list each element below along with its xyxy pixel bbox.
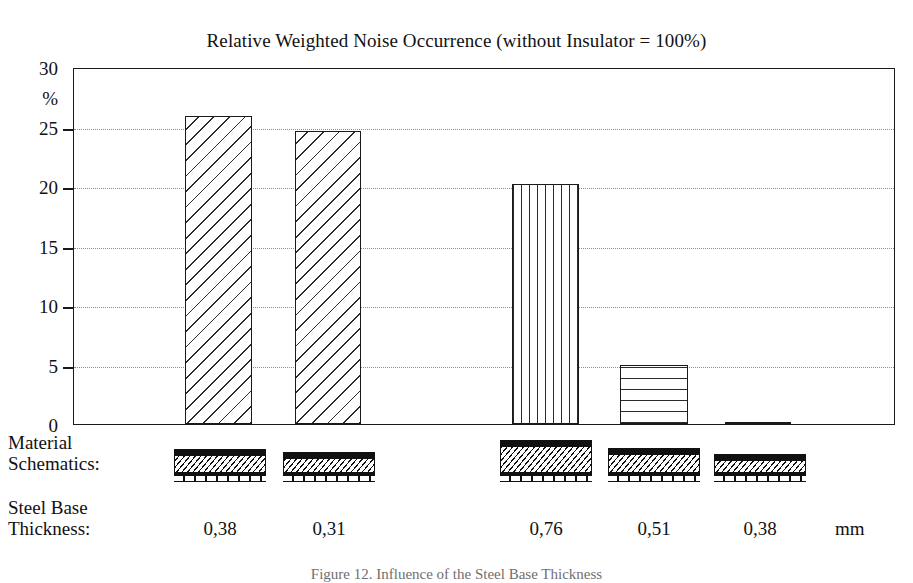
y-tick-label-15: 15 <box>39 237 58 256</box>
y-tick-label-25: 25 <box>39 118 58 137</box>
bar-3[interactable] <box>620 365 688 425</box>
steel-base-thickness-label: Steel Base Thickness: <box>8 497 90 539</box>
thickness-value-0: 0,38 <box>174 518 266 539</box>
y-tick-label-10: 10 <box>39 297 58 316</box>
steel-base-thickness-label-line1: Steel Base <box>8 497 90 518</box>
thickness-value-4: 0,38 <box>714 518 806 539</box>
bar-0[interactable] <box>185 116 252 424</box>
schematic-base-layer <box>174 475 266 482</box>
y-tick-15 <box>63 248 74 250</box>
schematic-top-layer <box>283 452 375 459</box>
y-tick-5 <box>63 367 74 369</box>
material-schematic-3 <box>608 448 700 482</box>
figure-container: Relative Weighted Noise Occurrence (with… <box>0 0 913 583</box>
schematic-top-layer <box>608 448 700 455</box>
y-tick-10 <box>63 307 74 309</box>
schematic-base-layer <box>608 475 700 482</box>
material-schematic-0 <box>174 449 266 482</box>
chart-title: Relative Weighted Noise Occurrence (with… <box>0 30 913 52</box>
schematic-steel-core <box>283 459 375 472</box>
steel-base-thickness-label-line2: Thickness: <box>8 518 90 539</box>
material-schematics-label: Material Schematics: <box>8 432 100 474</box>
y-axis-unit-label: % <box>42 89 58 108</box>
schematic-base-layer <box>714 475 806 482</box>
schematic-base-layer <box>500 475 592 482</box>
schematic-steel-core <box>174 456 266 472</box>
schematic-top-layer <box>714 454 806 461</box>
schematic-steel-core <box>608 455 700 472</box>
bar-1[interactable] <box>295 131 361 424</box>
material-schematic-2 <box>500 440 592 482</box>
bar-2[interactable] <box>512 184 579 424</box>
material-schematic-1 <box>283 452 375 482</box>
y-tick-label-20: 20 <box>39 178 58 197</box>
bar-4[interactable] <box>725 422 791 424</box>
schematic-top-layer <box>500 440 592 447</box>
schematic-steel-core <box>500 447 592 472</box>
y-tick-25 <box>63 129 74 131</box>
thickness-value-3: 0,51 <box>608 518 700 539</box>
material-schematic-4 <box>714 454 806 482</box>
material-schematics-label-line2: Schematics: <box>8 453 100 474</box>
y-tick-label-30: 30 <box>39 59 58 78</box>
thickness-value-2: 0,76 <box>500 518 592 539</box>
schematic-base-layer <box>283 475 375 482</box>
schematic-steel-core <box>714 461 806 472</box>
plot-area <box>73 68 895 425</box>
schematic-top-layer <box>174 449 266 456</box>
thickness-unit-label: mm <box>835 518 865 539</box>
thickness-value-1: 0,31 <box>283 518 375 539</box>
y-tick-label-5: 5 <box>49 356 59 375</box>
y-tick-20 <box>63 188 74 190</box>
y-axis-label-group: 30 % 25 20 15 10 5 0 <box>0 68 66 425</box>
figure-caption: Figure 12. Influence of the Steel Base T… <box>0 566 913 583</box>
material-schematics-label-line1: Material <box>8 432 100 453</box>
